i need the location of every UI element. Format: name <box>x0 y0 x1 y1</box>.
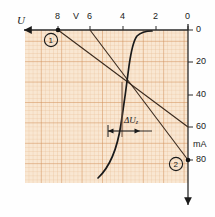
i-axis <box>188 24 193 205</box>
i-tick-label-20: 20 <box>196 57 206 66</box>
u-axis <box>24 26 188 30</box>
zener-graph-svg <box>0 0 215 217</box>
u-tick-label-2: 2 <box>153 12 158 21</box>
delta-uz-subscript: z <box>136 119 138 125</box>
i-tick-label-40: 40 <box>196 90 206 99</box>
u-tick-label-8: 8 <box>55 12 60 21</box>
marker-2-label: 2 <box>174 160 178 169</box>
graph-paper <box>25 30 188 183</box>
i-tick-label-60: 60 <box>196 122 206 131</box>
marker-1-label: 1 <box>49 36 53 45</box>
i-tick-label-0: 0 <box>196 25 201 34</box>
delta-uz-main: ΔU <box>124 115 136 125</box>
figure-root: U 8 V 6 4 2 0 0 20 40 60 mA 80 1 2 ΔUz <box>0 0 215 217</box>
u-tick-label-6: 6 <box>87 12 92 21</box>
u-axis-unit-label: V <box>73 12 79 21</box>
u-tick-label-0: 0 <box>185 12 190 21</box>
u-tick-label-4: 4 <box>120 12 125 21</box>
u-axis-symbol: U <box>17 16 25 25</box>
i-tick-label-80: 80 <box>196 155 206 164</box>
delta-uz-label: ΔUz <box>124 116 138 127</box>
i-axis-unit-label: mA <box>193 140 207 149</box>
